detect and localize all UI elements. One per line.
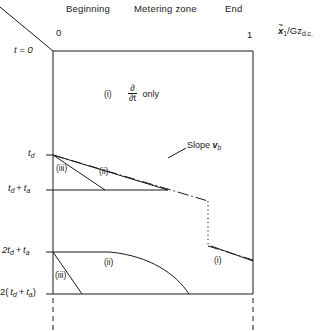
column-heading-metering-zone: Metering zone [134,4,197,14]
partial-suffix-label: only [142,89,159,99]
figure-canvas: Beginning Metering zone End ~ x 1/Gzd.c.… [0,0,323,332]
y-tick-label-td: td [28,148,34,160]
x-tick-label-1: 1 [247,30,252,40]
characteristic-2td-curve [110,252,189,294]
region-label-ii-mid: (ii) [99,167,108,176]
slope-vb-line-upper [53,155,208,201]
tilde-accent-icon: ~ [278,21,283,30]
y-tick-label-t-zero: t = 0 [14,45,33,55]
plus-sign-2: + [14,244,23,255]
slope-vb-leader [168,148,186,158]
x-axis-denominator-subscript: d.c. [302,30,313,37]
slope-word-label: Slope [187,140,213,150]
y-tick-label-2td-plus-ta: 2td + ta [2,245,30,257]
partial-derivative-fraction: ∂ ∂t [128,84,137,104]
x-axis-label: ~ x 1/Gzd.c. [278,26,313,38]
td-subscript: d [31,152,35,159]
column-heading-end: End [225,4,243,14]
column-heading-beginning: Beginning [66,4,110,14]
region-label-i-top: (i) [104,90,112,99]
region-label-iii-mid: (iii) [56,164,67,173]
partial-derivative-annotation: ∂ ∂t only [128,84,159,104]
slope-vb-annotation: Slope vb [187,141,221,151]
ta-subscript-2: a [26,249,30,256]
region-label-iii-lower: (iii) [55,271,66,280]
region-label-i-lower: (i) [214,256,222,265]
x-axis-denominator: /Gz [287,25,302,36]
vb-subscript: b [218,144,222,151]
plus-sign-1: + [14,182,23,193]
y-tick-label-td-plus-ta: td + ta [8,183,30,195]
y-tick-label-2-paren-td-plus-ta: 2( td + ta) [0,287,36,299]
ta-subscript-1: a [26,187,30,194]
close-paren: ) [33,286,36,297]
x-axis-tilde-group: ~ x [278,26,283,36]
partial-denominator: ∂t [128,94,137,103]
plus-sign-3: + [17,286,26,297]
x-tick-label-0: 0 [56,28,61,38]
characteristic-diagram-svg [0,0,323,332]
region-label-ii-lower: (ii) [104,258,113,267]
